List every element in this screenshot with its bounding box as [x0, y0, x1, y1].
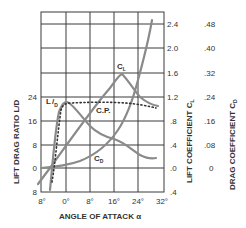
svg-text:2.4: 2.4	[167, 20, 179, 29]
x-axis-title: ANGLE OF ATTACK α	[59, 212, 141, 221]
left-axis-ticks: 24 16 8 0 8	[28, 93, 37, 197]
svg-text:.8: .8	[170, 117, 177, 126]
svg-text:.0: .0	[170, 164, 177, 173]
svg-text:.16: .16	[204, 117, 216, 126]
left-axis-title: LIFT DRAG RATIO L/D	[12, 99, 21, 184]
svg-text:8: 8	[33, 141, 38, 150]
cd-label: CD	[94, 154, 104, 164]
svg-text:0: 0	[209, 164, 214, 173]
svg-text:1.6: 1.6	[167, 69, 179, 78]
svg-text:32°: 32°	[156, 197, 168, 206]
svg-text:8°: 8°	[38, 197, 46, 206]
svg-text:0: 0	[33, 164, 38, 173]
svg-text:16: 16	[28, 117, 37, 126]
svg-text:8: 8	[33, 188, 38, 197]
svg-text:.4: .4	[170, 188, 177, 197]
airfoil-performance-chart: CL L/D C.P. CD 24 16 8 0 8 LIFT DRAG RAT…	[0, 0, 246, 228]
cl-axis-title: LIFT COEFFICIENT CL	[185, 100, 195, 184]
cl-axis-ticks: 2.4 2.0 1.6 1.2 .8 .4 .0 .4	[167, 20, 179, 197]
cp-label: C.P.	[96, 106, 111, 115]
cd-axis-ticks: .48 .40 .32 .24 .16 .08 0	[204, 20, 216, 173]
svg-text:16°: 16°	[108, 197, 120, 206]
svg-text:2.0: 2.0	[167, 44, 179, 53]
svg-text:.48: .48	[204, 20, 216, 29]
svg-text:.4: .4	[170, 141, 177, 150]
ld-label: L/D	[46, 97, 58, 108]
svg-text:.24: .24	[204, 93, 216, 102]
svg-text:24°: 24°	[132, 197, 144, 206]
svg-text:.40: .40	[204, 44, 216, 53]
svg-text:1.2: 1.2	[167, 93, 179, 102]
svg-text:.32: .32	[204, 69, 216, 78]
svg-text:8°: 8°	[86, 197, 94, 206]
cd-axis-title: DRAG COEFFICIENT CD	[228, 99, 238, 190]
cl-label: CL	[117, 62, 126, 72]
svg-text:24: 24	[28, 93, 37, 102]
svg-text:0°: 0°	[62, 197, 70, 206]
x-axis-ticks: 8° 0° 8° 16° 24° 32°	[38, 197, 168, 206]
svg-text:.08: .08	[204, 141, 216, 150]
cd-curve	[41, 20, 152, 168]
